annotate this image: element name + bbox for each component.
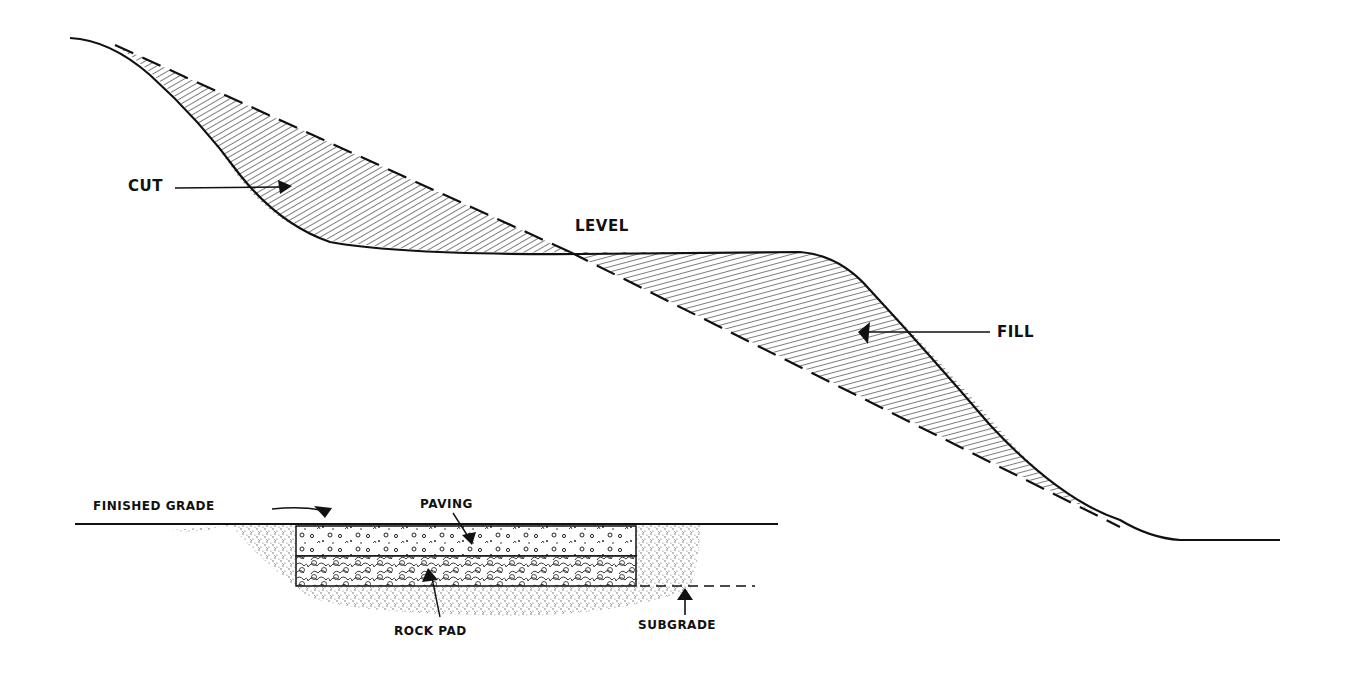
fill-region [570,252,1280,540]
paving-label: PAVING [420,497,473,511]
finished-grade-arrow [272,506,332,518]
cut-label: CUT [128,177,163,195]
finished-grade-label: FINISHED GRADE [93,499,215,513]
level-label: LEVEL [575,217,629,235]
fill-label: FILL [997,323,1034,341]
rock-pad-label: ROCK PAD [394,624,467,638]
subgrade-label: SUBGRADE [638,618,716,632]
cut-region [70,38,580,254]
paving-cross-section [75,524,778,616]
cut-fill-diagram [0,0,1346,697]
